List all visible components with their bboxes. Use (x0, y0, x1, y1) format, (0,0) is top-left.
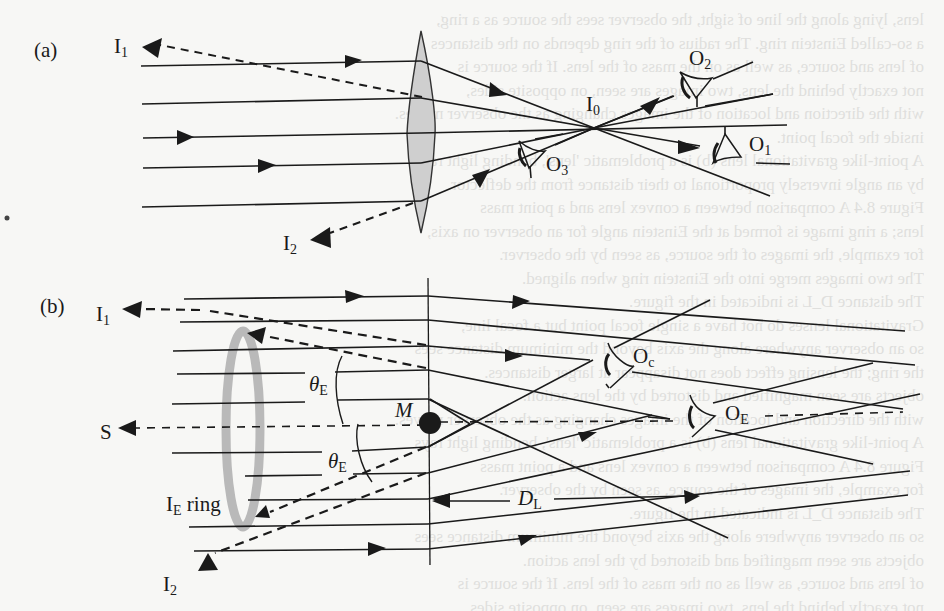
label-sub: 2 (290, 242, 297, 257)
label-einstein-ring: IE ring (166, 494, 221, 518)
label-text: θ (328, 449, 338, 473)
label-sub: 0 (593, 103, 600, 118)
label-o1: O1 (749, 134, 771, 158)
label-i0: I0 (586, 94, 600, 118)
label-sub: 2 (704, 57, 711, 72)
label-observer-oc: Oc (633, 346, 654, 370)
label-i2-b: I2 (163, 574, 177, 598)
label-sub: E (740, 412, 749, 427)
eye-icon-o1 (713, 127, 741, 163)
label-sub: 1 (103, 313, 110, 328)
label-text: O (546, 152, 561, 176)
label-sub: L (533, 497, 542, 512)
label-mass-m: M (395, 400, 413, 421)
eye-icon-oe (690, 395, 715, 437)
label-sub: c (648, 355, 654, 370)
label-o2: O2 (689, 48, 711, 72)
label-i1-b: I1 (96, 304, 110, 328)
label-text: I (96, 302, 103, 326)
label-text: I (114, 34, 121, 58)
label-text: D (518, 486, 533, 510)
label-theta-e-lower: θE (328, 451, 347, 475)
label-i1-a: I1 (114, 36, 128, 60)
panel-b-label: (b) (40, 296, 65, 317)
eye-icon-oc (606, 343, 634, 388)
label-sub: 3 (561, 163, 568, 178)
panel-a-label: (a) (34, 40, 57, 61)
label-i2-a: I2 (283, 233, 297, 257)
label-sub: E (319, 383, 328, 398)
eye-icon-o2 (680, 72, 712, 107)
label-text: O (725, 401, 740, 425)
label-text: O (633, 344, 648, 368)
label-source-s: S (100, 422, 112, 443)
label-distance-dl: DL (518, 488, 542, 512)
label-sub: 2 (170, 583, 177, 598)
einstein-ring (226, 331, 260, 527)
eye-icon-o3 (519, 141, 545, 178)
label-sub: 1 (764, 143, 771, 158)
label-text: O (689, 46, 704, 70)
label-sub: E (173, 503, 182, 518)
label-o3: O3 (546, 154, 568, 178)
label-observer-oe: OE (725, 403, 749, 427)
label-text: O (749, 132, 764, 156)
label-text: I (283, 231, 290, 255)
point-mass-m (419, 412, 441, 434)
label-text: ring (187, 492, 221, 516)
panel-b-gravitational-lens-diagram (118, 278, 920, 571)
label-sub: 1 (121, 45, 128, 60)
diagram-canvas (0, 0, 944, 611)
label-text: I (163, 572, 170, 596)
label-theta-e-upper: θE (309, 374, 328, 398)
label-text: I (586, 92, 593, 116)
label-text: θ (309, 372, 319, 396)
label-text: I (166, 492, 173, 516)
label-sub: E (338, 460, 347, 475)
